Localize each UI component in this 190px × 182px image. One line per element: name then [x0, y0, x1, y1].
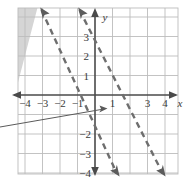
x-tick-label: 1: [110, 97, 116, 109]
y-axis-label: y: [102, 11, 108, 23]
x-tick-label: −1: [72, 97, 84, 109]
graph-svg: −4 −3 −2 −1 1 3 4 3 2 1 −2 −3 −4 x y: [0, 0, 190, 182]
y-tick-label: −3: [79, 148, 91, 160]
x-tick-label: 3: [145, 97, 151, 109]
x-tick-label: −2: [54, 97, 66, 109]
y-tick-label: −4: [79, 167, 91, 179]
x-tick-label: −3: [37, 97, 49, 109]
x-tick-label: 4: [162, 97, 168, 109]
y-tick-label: −2: [79, 128, 91, 140]
y-tick-label: 1: [84, 70, 90, 82]
x-tick-label: −4: [19, 97, 31, 109]
x-axis-label: x: [177, 97, 183, 109]
y-tick-label: 2: [84, 50, 90, 62]
y-tick-label: 3: [84, 31, 90, 43]
coordinate-plane-figure: −4 −3 −2 −1 1 3 4 3 2 1 −2 −3 −4 x y: [0, 0, 190, 182]
